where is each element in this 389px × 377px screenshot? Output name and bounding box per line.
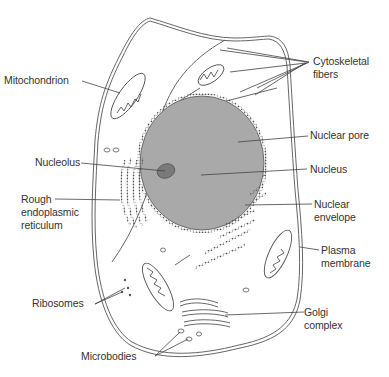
nucleus [138,94,266,232]
mitochondrion-left [105,69,151,124]
label-rough-er: Rough endoplasmic reticulum [21,193,79,232]
label-cytoskeletal-fibers: Cytoskeletal fibers [313,55,369,81]
mitochondrion-right [259,227,297,282]
cell-diagram: Mitochondrion Cytoskeletal fibers Nuclea… [0,0,389,377]
label-nuclear-envelope: Nuclear envelope [314,198,356,224]
label-mitochondrion: Mitochondrion [4,74,69,87]
mitochondrion-bottom [137,259,180,315]
label-golgi-complex: Golgi complex [304,306,342,332]
mitochondrion-top [195,61,228,90]
label-nuclear-pore: Nuclear pore [310,129,369,142]
label-microbodies: Microbodies [81,350,137,363]
label-plasma-membrane: Plasma membrane [321,244,370,270]
golgi-complex [180,299,230,327]
label-ribosomes: Ribosomes [32,297,84,310]
label-nucleolus: Nucleolus [35,156,80,169]
label-nucleus: Nucleus [310,163,347,176]
ribosomes [121,279,131,296]
